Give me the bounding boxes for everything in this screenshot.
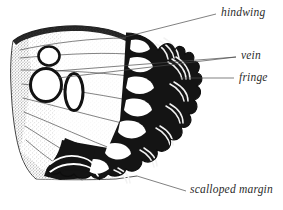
leader-hindwing	[125, 14, 216, 37]
label-fringe: fringe	[239, 72, 268, 84]
wing-illustration	[11, 26, 202, 183]
leader-scalloped-margin	[137, 176, 186, 191]
large-ocellus	[31, 69, 62, 102]
label-scalloped-margin: scalloped margin	[190, 184, 273, 196]
label-vein: vein	[241, 50, 261, 62]
elongate-ocellus	[65, 74, 83, 111]
hindwing-diagram	[0, 0, 283, 210]
label-hindwing: hindwing	[221, 7, 265, 19]
upper-small-ocellus	[39, 47, 60, 66]
